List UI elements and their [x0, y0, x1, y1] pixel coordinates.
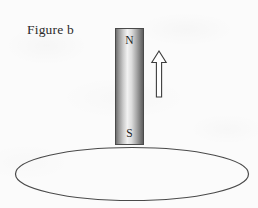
north-pole-label: N	[116, 34, 143, 46]
loop-outline	[16, 148, 249, 201]
figure-caption: Figure b	[27, 22, 74, 38]
motion-arrow-up-icon	[150, 50, 168, 98]
conducting-loop-ellipse	[14, 146, 250, 202]
figure-canvas: Figure b N S	[0, 0, 258, 208]
bar-magnet: N S	[115, 28, 144, 145]
arrow-outline	[152, 51, 166, 97]
south-pole-label: S	[116, 127, 143, 139]
